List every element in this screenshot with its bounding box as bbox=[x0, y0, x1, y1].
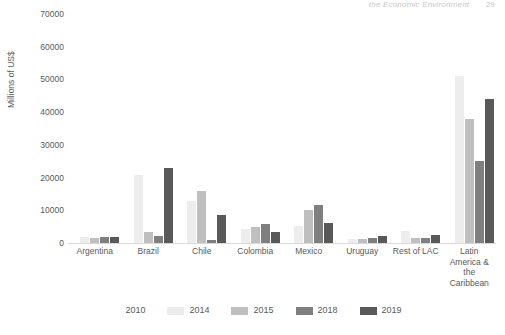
x-tick-label: Brazil bbox=[122, 246, 176, 257]
legend-label: 2015 bbox=[253, 306, 273, 315]
bar-group bbox=[68, 14, 122, 243]
legend-item[interactable]: 2018 bbox=[296, 306, 338, 315]
bar[interactable] bbox=[187, 201, 196, 243]
y-axis-tick-labels: 700006000050000400003000020000100000 bbox=[18, 0, 64, 250]
bar[interactable] bbox=[455, 76, 464, 243]
legend-swatch bbox=[167, 307, 184, 315]
bar[interactable] bbox=[134, 175, 143, 243]
legend-swatch bbox=[231, 307, 248, 315]
bar-group bbox=[175, 14, 229, 243]
bar[interactable] bbox=[251, 227, 260, 243]
bar[interactable] bbox=[294, 226, 303, 243]
x-tick-label: Mexico bbox=[282, 246, 336, 257]
y-tick-label: 10000 bbox=[18, 206, 64, 215]
bar-group bbox=[389, 14, 443, 243]
legend-item[interactable]: 2010 bbox=[103, 306, 145, 315]
y-tick-label: 70000 bbox=[18, 10, 64, 19]
x-tick-label: Argentina bbox=[68, 246, 122, 257]
bar[interactable] bbox=[197, 191, 206, 243]
bar[interactable] bbox=[401, 231, 410, 243]
y-tick-label: 40000 bbox=[18, 108, 64, 117]
bar-chart: Millions of US$ 700006000050000400003000… bbox=[0, 0, 505, 300]
y-tick-label: 20000 bbox=[18, 173, 64, 182]
legend-label: 2018 bbox=[318, 306, 338, 315]
bar-group bbox=[122, 14, 176, 243]
bar[interactable] bbox=[314, 205, 323, 243]
bar[interactable] bbox=[324, 223, 333, 243]
bar[interactable] bbox=[485, 99, 494, 243]
bar[interactable] bbox=[465, 119, 474, 243]
bar[interactable] bbox=[144, 232, 153, 243]
bar[interactable] bbox=[475, 161, 484, 243]
x-axis-baseline bbox=[68, 243, 496, 244]
bar[interactable] bbox=[431, 235, 440, 243]
x-tick-label: Chile bbox=[175, 246, 229, 257]
x-tick-label: Colombia bbox=[229, 246, 283, 257]
bar[interactable] bbox=[378, 236, 387, 243]
x-tick-label: Uruguay bbox=[336, 246, 390, 257]
bar[interactable] bbox=[261, 224, 270, 243]
bar-group bbox=[282, 14, 336, 243]
legend-swatch bbox=[360, 307, 377, 315]
legend-label: 2014 bbox=[189, 306, 209, 315]
y-tick-label: 50000 bbox=[18, 75, 64, 84]
bar-group bbox=[229, 14, 283, 243]
bar[interactable] bbox=[164, 168, 173, 243]
bar[interactable] bbox=[304, 210, 313, 243]
x-axis-tick-labels: ArgentinaBrazilChileColombiaMexicoUrugua… bbox=[68, 246, 496, 300]
plot-area bbox=[68, 14, 496, 243]
legend-swatch bbox=[103, 307, 120, 315]
legend-label: 2019 bbox=[382, 306, 402, 315]
chart-legend: 20102014201520182019 bbox=[0, 306, 505, 315]
y-tick-label: 60000 bbox=[18, 42, 64, 51]
legend-item[interactable]: 2019 bbox=[360, 306, 402, 315]
x-tick-label: LatinAmerica &theCaribbean bbox=[443, 246, 497, 288]
y-axis-title: Millions of US$ bbox=[6, 94, 16, 108]
bar[interactable] bbox=[241, 229, 250, 243]
y-tick-label: 0 bbox=[18, 239, 64, 248]
y-tick-label: 30000 bbox=[18, 141, 64, 150]
bar[interactable] bbox=[217, 215, 226, 243]
x-tick-label: Rest of LAC bbox=[389, 246, 443, 257]
legend-item[interactable]: 2014 bbox=[167, 306, 209, 315]
bar-group bbox=[443, 14, 497, 243]
bar[interactable] bbox=[271, 232, 280, 243]
legend-item[interactable]: 2015 bbox=[231, 306, 273, 315]
legend-label: 2010 bbox=[125, 306, 145, 315]
bar-group bbox=[336, 14, 390, 243]
legend-swatch bbox=[296, 307, 313, 315]
